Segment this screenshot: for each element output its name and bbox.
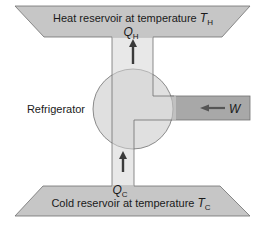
heat-flow-channel [112, 36, 176, 187]
refrigerator-diagram: Heat reservoir at temperature TH QH Refr… [0, 0, 262, 229]
refrigerator-label: Refrigerator [27, 103, 85, 115]
work-label: W [229, 102, 242, 116]
